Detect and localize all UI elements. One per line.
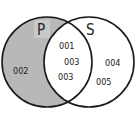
s-only-item: 005	[96, 77, 111, 87]
intersection-item: 001	[59, 41, 74, 51]
intersection-item: 003	[58, 72, 73, 82]
venn-diagram: P S 002 001 003 003 004 005	[0, 0, 140, 114]
set-p-label: P	[37, 21, 45, 39]
set-s-label: S	[86, 21, 95, 39]
intersection-item: 003	[64, 57, 79, 67]
s-only-item: 004	[105, 58, 120, 68]
p-only-item: 002	[13, 66, 28, 76]
